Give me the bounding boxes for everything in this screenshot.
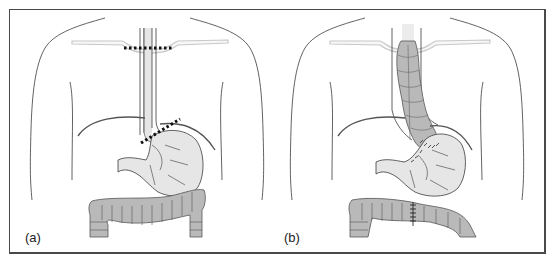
colon-b xyxy=(349,198,476,237)
stomach-a xyxy=(118,130,203,196)
interposed-colon-b xyxy=(397,41,439,149)
panel-label-a: (a) xyxy=(25,230,41,245)
esophageal-stump-b xyxy=(402,24,414,41)
anatomy-illustration xyxy=(0,0,552,262)
panel-label-b: (b) xyxy=(284,230,300,245)
panel-b xyxy=(290,18,523,237)
panel-a xyxy=(30,18,263,237)
colon-a xyxy=(89,190,205,237)
esophagus-a xyxy=(140,28,166,142)
